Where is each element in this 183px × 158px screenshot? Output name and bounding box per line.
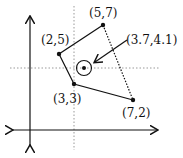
label-2-5: (2,5) — [41, 34, 69, 46]
solid-path — [59, 25, 133, 100]
centroid-point — [82, 66, 86, 70]
point-7-2 — [131, 98, 135, 102]
label-5-7: (5,7) — [89, 7, 117, 19]
diagram-canvas — [0, 0, 183, 158]
label-3-3: (3,3) — [53, 93, 81, 105]
centroid-arrow — [95, 40, 127, 62]
point-3-3 — [72, 82, 76, 86]
point-5-7 — [101, 23, 105, 27]
point-2-5 — [57, 52, 61, 56]
label-centroid: (3.7,4.1) — [126, 34, 177, 46]
label-7-2: (7,2) — [122, 107, 150, 119]
coordinate-diagram: (5,7) (2,5) (3.7,4.1) (3,3) (7,2) — [0, 0, 183, 158]
